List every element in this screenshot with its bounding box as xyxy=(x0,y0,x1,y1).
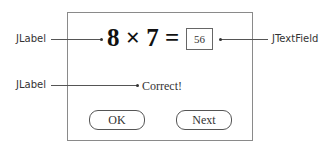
callout-line-equation xyxy=(51,39,102,40)
result-label: Correct! xyxy=(142,78,182,94)
callout-result-jlabel: JLabel xyxy=(16,79,46,91)
callout-arrow-textfield xyxy=(219,38,222,41)
ok-button[interactable]: OK xyxy=(89,110,145,130)
callout-equation-jlabel: JLabel xyxy=(16,33,46,45)
answer-text-field[interactable] xyxy=(186,28,213,50)
callout-line-textfield xyxy=(220,39,268,40)
callout-line-result xyxy=(51,85,138,86)
callout-arrow-equation xyxy=(100,38,103,41)
equation-label: 8 × 7 = xyxy=(107,24,179,52)
callout-jtextfield: JTextField xyxy=(272,33,318,45)
callout-arrow-result xyxy=(136,84,139,87)
next-button[interactable]: Next xyxy=(176,110,232,130)
